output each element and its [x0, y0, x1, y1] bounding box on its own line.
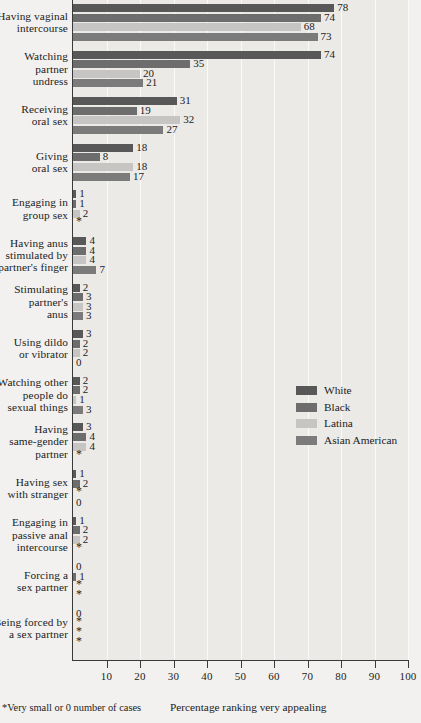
bar-value-label: *	[76, 449, 82, 460]
bar	[73, 470, 76, 478]
bar	[73, 200, 76, 208]
bar	[73, 79, 143, 87]
bar	[73, 23, 301, 31]
bar	[73, 423, 83, 431]
x-axis-tick	[274, 661, 275, 668]
bar-value-label: *	[76, 636, 82, 647]
category-label: Givingoral sex	[0, 150, 68, 175]
gridline	[241, 0, 242, 660]
category-label-line: people do	[0, 389, 68, 401]
chart-footnote: *Very small or 0 number of cases	[2, 702, 141, 713]
bar	[73, 190, 76, 198]
legend-item: Asian American	[296, 433, 418, 450]
category-label-line: same-gender	[0, 435, 68, 447]
bar	[73, 60, 190, 68]
category-label-line: group sex	[0, 209, 68, 221]
category-label: Stimulatingpartner'sanus	[0, 283, 68, 320]
category-label-line: Watching	[0, 50, 68, 62]
x-axis-tick-label: 70	[293, 670, 323, 682]
category-label: Being forced bya sex partner	[0, 616, 68, 641]
x-axis-tick-label: 10	[92, 670, 122, 682]
bar	[73, 340, 80, 348]
bar-value-label: 8	[103, 151, 109, 162]
category-label-line: sexual things	[0, 401, 68, 413]
x-axis-tick	[408, 661, 409, 668]
category-label: Forcing asex partner	[0, 569, 68, 594]
category-label-line: Having sex	[0, 476, 68, 488]
category-label-line: Forcing a	[0, 569, 68, 581]
bar	[73, 330, 83, 338]
category-label-line: partner	[0, 63, 68, 75]
bar-value-label: 4	[89, 254, 95, 265]
bar-value-label: 74	[324, 12, 335, 23]
x-axis-tick	[207, 661, 208, 668]
bar	[73, 126, 163, 134]
legend-swatch	[296, 436, 317, 445]
bar	[73, 107, 137, 115]
gridline	[375, 0, 376, 660]
x-axis-tick	[375, 661, 376, 668]
x-axis-tick-label: 60	[259, 670, 289, 682]
category-label: Receivingoral sex	[0, 103, 68, 128]
bar-value-label: 2	[83, 347, 89, 358]
bar-value-label: 35	[193, 58, 204, 69]
category-label-line: Having vaginal	[0, 10, 68, 22]
bar-value-label: *	[76, 542, 82, 553]
bar	[73, 284, 80, 292]
bar	[73, 116, 180, 124]
legend-swatch	[296, 386, 317, 395]
bar-value-label: 1	[79, 394, 85, 405]
x-axis-tick	[308, 661, 309, 668]
legend-swatch	[296, 403, 317, 412]
x-axis-tick	[241, 661, 242, 668]
bar	[73, 173, 130, 181]
category-label-line: intercourse	[0, 22, 68, 34]
bar-value-label: 0	[76, 357, 82, 368]
category-label: Engaging ingroup sex	[0, 196, 68, 221]
legend-item: White	[296, 383, 418, 400]
category-label: Watching otherpeople dosexual things	[0, 376, 68, 413]
bar	[73, 406, 83, 414]
horizontal-bar-chart: 102030405060708090100 Having vaginalinte…	[0, 0, 421, 723]
bar	[73, 526, 80, 534]
bar-value-label: 4	[89, 441, 95, 452]
category-label-line: Using dildo	[0, 336, 68, 348]
x-axis-tick	[140, 661, 141, 668]
x-axis-title: Percentage ranking very appealing	[170, 701, 327, 713]
bar	[73, 517, 76, 525]
bar-value-label: 21	[146, 77, 157, 88]
category-label-line: oral sex	[0, 162, 68, 174]
category-label-line: oral sex	[0, 115, 68, 127]
bar-value-label: 17	[133, 171, 144, 182]
bar	[73, 377, 80, 385]
bar-value-label: 32	[183, 114, 194, 125]
category-label-line: undress	[0, 75, 68, 87]
bar-value-label: 2	[83, 534, 89, 545]
category-label-line: anus	[0, 308, 68, 320]
bar	[73, 163, 133, 171]
category-label-line: passive anal	[0, 529, 68, 541]
bar-value-label: 7	[99, 264, 105, 275]
bar-value-label: 3	[86, 310, 92, 321]
bar-value-label: 27	[166, 124, 177, 135]
category-label-line: sex partner	[0, 581, 68, 593]
category-label-line: Having	[0, 423, 68, 435]
bar	[73, 266, 96, 274]
bar	[73, 237, 86, 245]
bar-value-label: 68	[304, 21, 315, 32]
bar-value-label: 2	[83, 478, 89, 489]
legend-label: White	[324, 383, 352, 398]
gridline	[308, 0, 309, 660]
category-label: Having anusstimulated bypartner's finger	[0, 237, 68, 274]
bar	[73, 97, 177, 105]
category-label: Having vaginalintercourse	[0, 10, 68, 35]
bar	[73, 396, 76, 404]
bar-value-label: 31	[180, 95, 191, 106]
bar	[73, 4, 334, 12]
gridline	[341, 0, 342, 660]
x-axis-tick-label: 90	[360, 670, 390, 682]
x-axis-tick-label: 20	[125, 670, 155, 682]
category-label-line: Receiving	[0, 103, 68, 115]
x-axis-tick-label: 30	[159, 670, 189, 682]
bar	[73, 247, 86, 255]
